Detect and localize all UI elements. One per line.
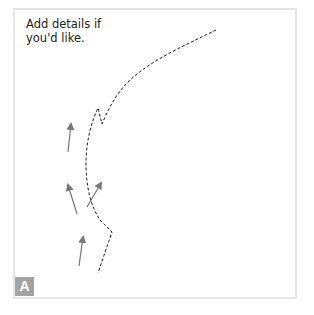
arrow-icon: [79, 237, 83, 266]
arrow-icon: [68, 185, 77, 214]
sketch-layer: [0, 0, 314, 315]
dashed-trajectory-line: [86, 30, 216, 273]
arrow-icon: [68, 124, 71, 152]
panel-label-badge: A: [15, 277, 34, 296]
